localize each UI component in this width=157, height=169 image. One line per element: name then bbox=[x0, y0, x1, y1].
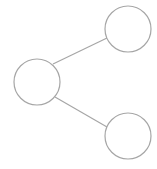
node-top-right bbox=[105, 6, 151, 52]
node-bottom-right bbox=[105, 113, 151, 159]
node-left bbox=[14, 59, 60, 105]
edge-left-to-bottom-right bbox=[55, 97, 107, 127]
node-link-diagram bbox=[0, 0, 157, 169]
edge-left-to-top-right bbox=[53, 38, 107, 64]
